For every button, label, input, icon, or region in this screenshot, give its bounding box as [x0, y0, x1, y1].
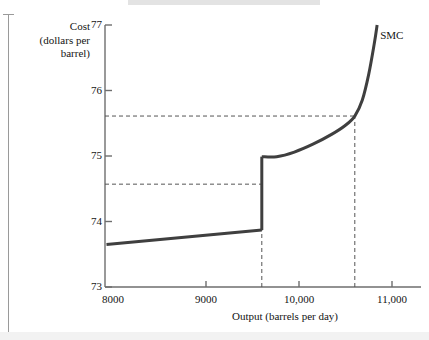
- y-tick-label: 77: [80, 19, 102, 30]
- y-tick-label: 75: [80, 150, 102, 161]
- x-tick-label: 8000: [73, 294, 153, 305]
- x-tick-label: 10,000: [259, 294, 339, 305]
- y-tick-label: 73: [80, 281, 102, 292]
- y-tick-label: 76: [80, 85, 102, 96]
- x-tick-label: 9000: [166, 294, 246, 305]
- x-axis-ticks: [206, 281, 392, 287]
- plot-area: [0, 0, 429, 340]
- curve-post-jump-rising-segment: [262, 25, 377, 157]
- smc-cost-curve-figure: Cost (dollars per barrel) Output (barrel…: [0, 0, 429, 340]
- y-axis-ticks: [105, 25, 112, 287]
- series-smc: [106, 25, 377, 244]
- y-tick-label: 74: [80, 216, 102, 227]
- curve-pre-jump-segment: [106, 230, 261, 244]
- x-tick-label: 11,000: [352, 294, 429, 305]
